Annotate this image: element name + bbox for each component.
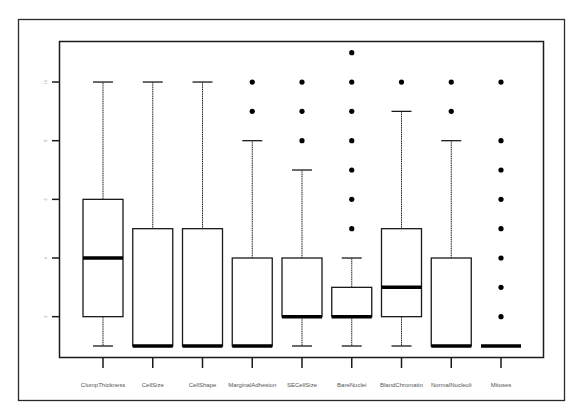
box-secellsize [282,79,322,346]
outlier-point [349,138,354,143]
x-tick-label: MarginalAdhesion [228,382,276,388]
box-cellshape [183,82,223,346]
x-tick-label: CellSize [142,382,165,388]
iqr-box [431,258,471,346]
outlier-point [250,79,255,84]
box-marginaladhesion [232,79,272,346]
x-tick-label: BareNuclei [337,382,366,388]
outlier-point [299,79,304,84]
outlier-point [498,167,503,172]
y-axis: 246810 [43,79,60,318]
box-mitoses [481,79,521,346]
iqr-box [183,229,223,346]
iqr-box [382,229,422,317]
iqr-box [133,229,173,346]
outlier-point [399,79,404,84]
boxplot-chart: 246810 ClumpThicknessCellSizeCellShapeMa… [0,0,583,420]
y-tick-label: 10 [43,79,48,84]
y-tick-label: 8 [43,139,48,142]
x-tick-label: Mitoses [491,382,512,388]
outlier-point [498,138,503,143]
outlier-point [349,50,354,55]
outlier-point [498,197,503,202]
x-axis: ClumpThicknessCellSizeCellShapeMarginalA… [81,358,512,389]
outlier-point [498,255,503,260]
outlier-point [449,79,454,84]
outlier-point [299,109,304,114]
outlier-point [349,226,354,231]
y-tick-label: 6 [43,197,48,200]
y-tick-label: 4 [43,256,48,259]
iqr-box [232,258,272,346]
outlier-point [498,79,503,84]
outlier-point [250,109,255,114]
box-blandchromatin [382,79,422,346]
x-tick-label: BlandChromatin [380,382,423,388]
x-tick-label: ClumpThickness [81,382,125,388]
box-clumpthickness [83,82,123,346]
box-cellsize [133,82,173,346]
iqr-box [332,287,372,316]
box-series [83,50,521,346]
iqr-box [282,258,322,317]
outlier-point [349,167,354,172]
y-tick-label: 2 [43,315,48,318]
box-normalnucleoli [431,79,471,346]
outlier-point [498,285,503,290]
x-tick-label: NormalNucleoli [431,382,472,388]
outlier-point [349,197,354,202]
outlier-point [299,138,304,143]
outlier-point [349,109,354,114]
x-tick-label: CellShape [189,382,217,388]
outlier-point [498,314,503,319]
outlier-point [498,226,503,231]
box-barenuclei [332,50,372,346]
outlier-point [349,79,354,84]
outlier-point [449,109,454,114]
x-tick-label: SECellSize [287,382,318,388]
